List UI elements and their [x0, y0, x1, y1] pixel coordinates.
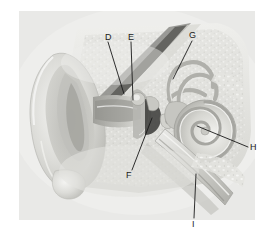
- label-F: F: [126, 171, 132, 180]
- label-D: D: [105, 33, 112, 42]
- label-E: E: [128, 33, 134, 42]
- ear-cross-section-drawing: [19, 11, 255, 220]
- figure-container: D E F G H I: [0, 0, 275, 233]
- ear-anatomy-illustration: [19, 11, 255, 220]
- label-H: H: [250, 143, 257, 152]
- cochlea-apex: [201, 127, 209, 135]
- label-I: I: [192, 220, 195, 229]
- label-G: G: [189, 31, 196, 40]
